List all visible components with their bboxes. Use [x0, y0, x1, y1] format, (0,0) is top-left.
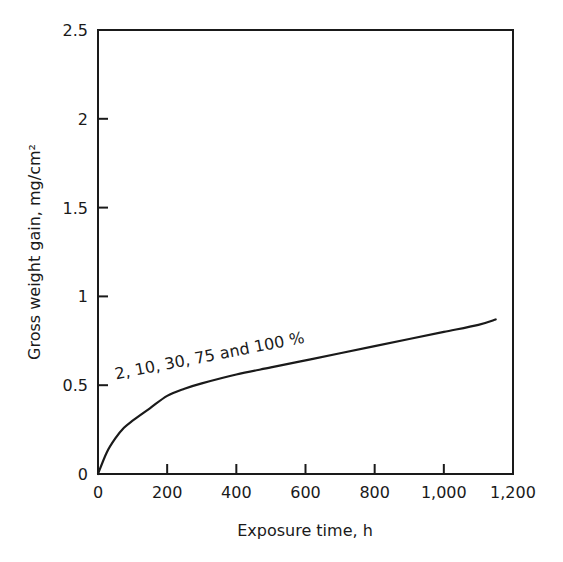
- x-tick-label: 1,200: [490, 483, 536, 502]
- y-tick-label: 1: [78, 287, 88, 306]
- y-axis-title: Gross weight gain, mg/cm²: [25, 144, 44, 360]
- y-tick-label: 2.5: [63, 21, 88, 40]
- series-annotation: 2, 10, 30, 75 and 100 %: [113, 328, 306, 383]
- x-tick-label: 0: [93, 483, 103, 502]
- x-tick-label: 200: [152, 483, 183, 502]
- plot-frame: [98, 30, 513, 474]
- x-axis-title: Exposure time, h: [237, 521, 373, 540]
- y-axis-ticks: 00.511.522.5: [63, 21, 108, 484]
- chart: 02004006008001,0001,200 00.511.522.5 2, …: [0, 0, 563, 562]
- y-tick-label: 0: [78, 465, 88, 484]
- y-tick-label: 1.5: [63, 199, 88, 218]
- x-tick-label: 400: [221, 483, 252, 502]
- x-axis-ticks: 02004006008001,0001,200: [93, 464, 536, 502]
- x-tick-label: 1,000: [421, 483, 467, 502]
- y-tick-label: 2: [78, 110, 88, 129]
- y-tick-label: 0.5: [63, 376, 88, 395]
- x-tick-label: 800: [359, 483, 390, 502]
- x-tick-label: 600: [290, 483, 321, 502]
